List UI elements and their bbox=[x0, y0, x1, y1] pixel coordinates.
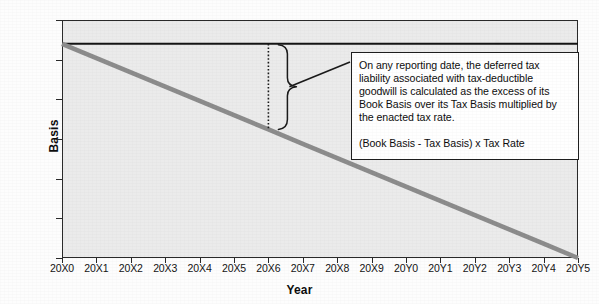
callout-leader-line bbox=[289, 62, 350, 87]
chart-figure: Basis Year 0100200300400500600 20X020X12… bbox=[0, 0, 599, 304]
callout-paragraph: On any reporting date, the deferred tax … bbox=[359, 59, 571, 124]
gap-curly-brace bbox=[278, 45, 296, 130]
callout-formula: (Book Basis - Tax Basis) x Tax Rate bbox=[359, 137, 525, 150]
callout-textbox: On any reporting date, the deferred tax … bbox=[351, 52, 579, 160]
